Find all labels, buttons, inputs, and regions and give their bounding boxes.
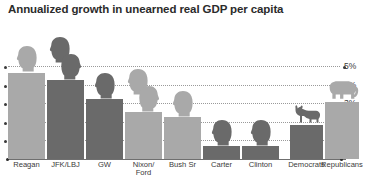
bar-nixonford [125, 112, 162, 159]
gridline-dot-left [4, 140, 7, 143]
gridline-dot-left [4, 85, 7, 88]
gridline-5% [8, 66, 340, 67]
bar-gw [86, 99, 123, 159]
y-axis-tick-5%: 5% [344, 61, 356, 71]
donkey-icon [292, 104, 322, 124]
president-head-icon [138, 85, 161, 112]
x-axis-label-clinton: Clinton [236, 161, 285, 169]
elephant-icon [324, 79, 360, 101]
bar-democrats [290, 125, 323, 159]
chart-title: Annualized growth in unearned real GDP p… [8, 3, 283, 15]
president-head-icon [171, 90, 194, 117]
bar-clinton [242, 146, 279, 159]
x-axis-label-republicans: Republicans [319, 161, 365, 169]
president-head-icon [249, 119, 272, 146]
president-head-icon [93, 72, 116, 99]
president-head-icon [210, 119, 233, 146]
bar-carter [203, 146, 240, 159]
gridline-dot-left [4, 103, 7, 106]
gridline-dot-left [4, 122, 7, 125]
chart-container: Annualized growth in unearned real GDP p… [0, 0, 380, 187]
bar-jfklbj [47, 80, 84, 159]
bar-republicans [325, 102, 359, 159]
bar-reagan [8, 73, 45, 159]
president-head-icon [60, 53, 83, 80]
bar-bushsr [164, 117, 201, 159]
gridline-dot-left [4, 66, 7, 69]
president-head-icon [15, 45, 38, 72]
